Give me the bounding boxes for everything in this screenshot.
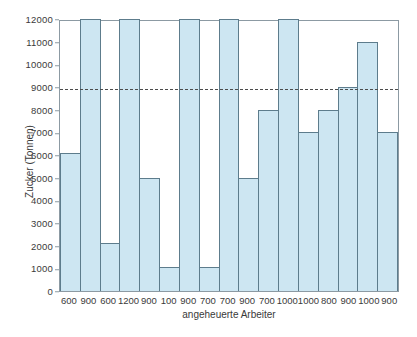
bar [298, 132, 319, 291]
bar [199, 267, 220, 291]
bar [357, 42, 378, 291]
y-axis-tick-label: 10000 [26, 61, 53, 71]
reference-line-9000 [60, 89, 398, 90]
y-axis-tick: 8000 [31, 106, 59, 116]
y-axis-tick: 10000 [26, 61, 59, 71]
y-axis-tick: 7000 [31, 129, 59, 139]
bar [139, 178, 160, 291]
y-axis-tick: 11000 [26, 38, 59, 48]
bar [100, 243, 121, 291]
x-axis-tick-label: 1000 [358, 294, 379, 307]
y-axis-tick: 9000 [31, 83, 59, 93]
y-axis-tick-label: 11000 [26, 38, 53, 48]
bar [159, 267, 180, 291]
y-axis-tick: 1000 [31, 265, 59, 275]
x-axis-tick-label: 900 [379, 294, 399, 307]
bar [377, 132, 398, 291]
bar [219, 19, 240, 291]
x-axis-tick-label: 600 [59, 294, 79, 307]
y-axis-title: Zucker (Tonnen) [24, 82, 35, 242]
x-axis: 6009006001200900100900700700900700100010… [59, 294, 399, 307]
x-axis-tick-label: 700 [198, 294, 218, 307]
bar [80, 19, 101, 291]
x-axis-tick-label: 700 [218, 294, 238, 307]
x-axis-tick-label: 900 [139, 294, 159, 307]
y-axis-tick: 6000 [31, 151, 59, 161]
y-axis-tick: 0 [48, 287, 59, 297]
x-axis-tick-label: 900 [178, 294, 198, 307]
bar-series [60, 21, 398, 291]
plot-area [59, 20, 399, 292]
y-axis-tick-label: 2000 [31, 242, 53, 252]
x-axis-tick-label: 600 [98, 294, 118, 307]
y-axis-tick: 5000 [31, 174, 59, 184]
bar [179, 19, 200, 291]
x-axis-tick-label: 100 [159, 294, 179, 307]
x-axis-tick-label: 900 [79, 294, 99, 307]
y-axis-tick-label: 0 [48, 287, 53, 297]
bar [238, 178, 259, 291]
x-axis-tick-label: 1000 [298, 294, 319, 307]
bar [278, 19, 299, 291]
y-axis-tick: 12000 [26, 15, 59, 25]
bar [60, 153, 81, 291]
x-axis-tick-label: 700 [257, 294, 277, 307]
x-axis-tick-label: 800 [319, 294, 339, 307]
y-axis-tick-label: 1000 [31, 265, 53, 275]
x-axis-tick-label: 900 [237, 294, 257, 307]
bar [119, 19, 140, 291]
x-axis-title: angeheuerte Arbeiter [59, 309, 399, 320]
y-axis-tick: 2000 [31, 242, 59, 252]
x-axis-tick-label: 1200 [118, 294, 139, 307]
bar [258, 110, 279, 291]
y-axis-tick-label: 12000 [26, 15, 53, 25]
y-axis-tick: 4000 [31, 197, 59, 207]
y-axis-tick: 3000 [31, 219, 59, 229]
x-axis-tick-label: 900 [339, 294, 359, 307]
bar [318, 110, 339, 291]
x-axis-tick-label: 1000 [277, 294, 298, 307]
bar-chart-figure: 1200011000100009000800070006000500040003… [0, 0, 417, 337]
bar [338, 87, 359, 291]
